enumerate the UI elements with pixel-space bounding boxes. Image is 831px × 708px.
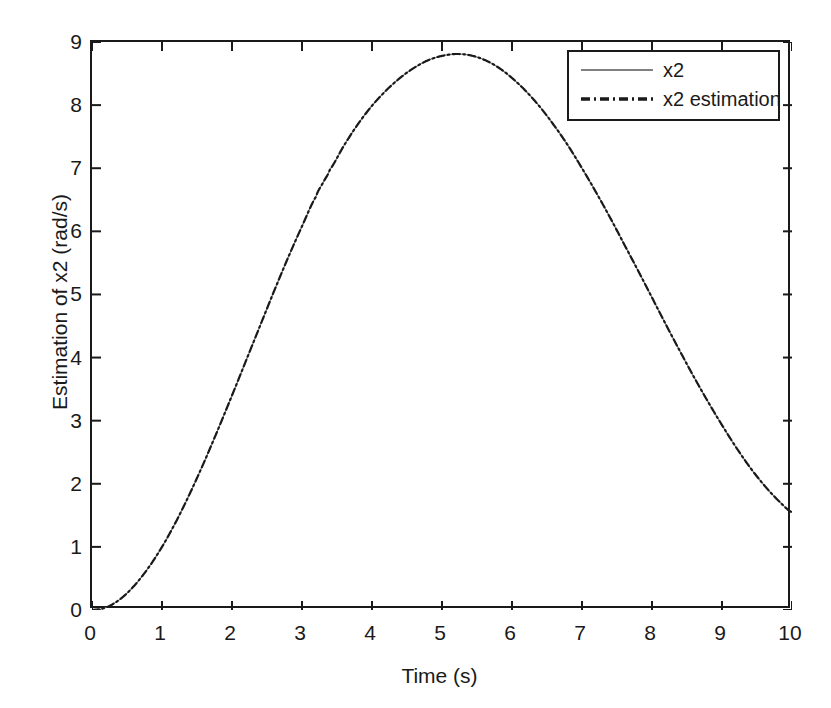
series-layer <box>92 54 792 610</box>
x-tick-label: 0 <box>60 622 120 643</box>
x-tick-label: 7 <box>550 622 610 643</box>
legend-sample-dashdot-line-icon <box>579 92 655 106</box>
x-axis-title: Time (s) <box>0 664 831 688</box>
figure-canvas: 9 8 7 6 5 4 3 2 1 0 0 1 2 3 4 5 6 7 8 9 … <box>0 0 831 708</box>
legend-box[interactable]: x2 x2 estimation <box>567 50 780 121</box>
tick-marks <box>92 42 792 610</box>
x-tick-label: 5 <box>410 622 470 643</box>
x-axis-title-text: Time (s) <box>401 664 477 687</box>
series-line <box>92 54 792 610</box>
series-line <box>92 54 792 610</box>
legend-sample-solid-line-icon <box>579 63 655 77</box>
x-tick-label: 8 <box>620 622 680 643</box>
plot-svg <box>92 42 792 610</box>
x-tick-label: 1 <box>130 622 190 643</box>
y-axis-title: Estimation of x2 (rad/s) <box>48 102 72 502</box>
x-tick-label: 10 <box>760 622 820 643</box>
legend-label: x2 <box>663 60 684 80</box>
x-tick-label: 4 <box>340 622 400 643</box>
legend-label: x2 estimation <box>663 89 781 109</box>
x-tick-label: 2 <box>200 622 260 643</box>
y-tick-label: 0 <box>42 599 82 620</box>
y-tick-label: 9 <box>42 31 82 52</box>
x-axis-tick-labels: 0 1 2 3 4 5 6 7 8 9 10 <box>0 622 831 652</box>
plot-area <box>90 40 790 608</box>
legend-entry-x2: x2 <box>579 58 684 82</box>
x-tick-label: 3 <box>270 622 330 643</box>
x-tick-label: 9 <box>690 622 750 643</box>
legend-entry-x2-estimation: x2 estimation <box>579 87 781 111</box>
x-tick-label: 6 <box>480 622 540 643</box>
y-tick-label: 1 <box>42 536 82 557</box>
page-caption-strip <box>6 693 426 705</box>
